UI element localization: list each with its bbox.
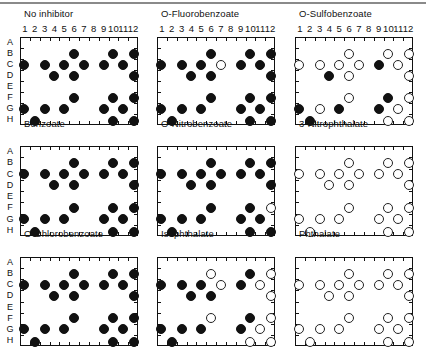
filled-well-icon <box>129 291 139 301</box>
axis-tick <box>403 146 404 150</box>
axis-tick <box>295 191 299 192</box>
filled-well-icon <box>108 49 118 59</box>
filled-well-icon <box>49 71 59 81</box>
axis-tick <box>20 70 24 71</box>
filled-well-icon <box>266 71 276 81</box>
filled-well-icon <box>40 324 50 334</box>
axis-tick <box>187 257 188 261</box>
axis-tick <box>295 268 299 269</box>
axis-tick <box>344 342 345 346</box>
filled-well-icon <box>245 158 255 168</box>
column-label: 12 <box>128 23 139 34</box>
filled-well-icon <box>236 280 246 290</box>
filled-well-icon <box>186 180 196 190</box>
open-well-icon <box>315 169 325 179</box>
open-well-icon <box>383 227 393 237</box>
axis-tick <box>40 342 41 346</box>
open-well-icon <box>315 324 325 334</box>
axis-tick <box>295 157 299 158</box>
axis-tick <box>134 114 138 115</box>
column-label: 11 <box>255 23 265 34</box>
row-label: A <box>7 37 13 47</box>
filled-well-icon <box>40 169 50 179</box>
axis-tick <box>216 232 217 236</box>
filled-well-icon <box>99 324 109 334</box>
axis-tick <box>374 121 375 125</box>
axis-tick <box>89 257 90 261</box>
row-label: D <box>7 70 14 80</box>
filled-well-icon <box>19 104 29 114</box>
column-label: 8 <box>228 23 233 34</box>
axis-tick <box>236 121 237 125</box>
filled-well-icon <box>79 169 89 179</box>
open-well-icon <box>315 60 325 70</box>
axis-tick <box>305 37 306 41</box>
open-well-icon <box>305 337 315 347</box>
axis-tick <box>409 169 413 170</box>
axis-tick <box>226 232 227 236</box>
axis-tick <box>20 335 24 336</box>
column-label: 8 <box>366 23 371 34</box>
axis-tick <box>216 257 217 261</box>
axis-tick <box>167 37 168 41</box>
axis-tick <box>89 342 90 346</box>
axis-tick <box>59 37 60 41</box>
filled-well-icon <box>196 324 206 334</box>
filled-well-icon <box>196 214 206 224</box>
open-well-icon <box>344 158 354 168</box>
row-label: H <box>7 335 14 345</box>
axis-tick <box>206 257 207 261</box>
open-well-icon <box>245 337 255 347</box>
axis-tick <box>236 257 237 261</box>
column-label: 4 <box>52 23 57 34</box>
filled-well-icon <box>206 180 216 190</box>
column-label: 9 <box>238 23 243 34</box>
row-label: G <box>6 324 13 334</box>
axis-tick <box>409 279 413 280</box>
filled-well-icon <box>118 104 128 114</box>
column-label: 3 <box>317 23 322 34</box>
axis-tick <box>216 37 217 41</box>
column-label: 11 <box>393 23 403 34</box>
axis-tick <box>187 342 188 346</box>
axis-tick <box>255 146 256 150</box>
axis-tick <box>167 146 168 150</box>
axis-tick <box>99 342 100 346</box>
axis-tick <box>20 81 24 82</box>
open-well-icon <box>354 280 364 290</box>
filled-well-icon <box>40 214 50 224</box>
column-label: 7 <box>81 23 86 34</box>
axis-tick <box>50 342 51 346</box>
filled-well-icon <box>206 158 216 168</box>
row-label: B <box>7 157 13 167</box>
column-label: 6 <box>208 23 213 34</box>
row-label: C <box>7 59 14 69</box>
axis-tick <box>295 114 299 115</box>
filled-well-icon <box>167 337 177 347</box>
axis-tick <box>409 59 413 60</box>
axis-tick <box>134 335 138 336</box>
axis-tick <box>374 146 375 150</box>
axis-tick <box>246 257 247 261</box>
axis-tick <box>409 103 413 104</box>
axis-tick <box>271 103 275 104</box>
filled-well-icon <box>186 71 196 81</box>
filled-well-icon <box>266 93 276 103</box>
open-well-icon <box>383 337 393 347</box>
panel-title: O-Chlorobenzoate <box>24 228 103 239</box>
axis-tick <box>374 342 375 346</box>
axis-tick <box>69 257 70 261</box>
axis-tick <box>315 146 316 150</box>
filled-well-icon <box>177 324 187 334</box>
axis-tick <box>344 146 345 150</box>
axis-tick <box>50 146 51 150</box>
filled-well-icon <box>236 324 246 334</box>
filled-well-icon <box>108 227 118 237</box>
filled-well-icon <box>19 324 29 334</box>
filled-well-icon <box>383 93 393 103</box>
filled-well-icon <box>266 116 276 126</box>
panel-title: O-Fluorobenzoate <box>161 8 239 19</box>
filled-well-icon <box>59 280 69 290</box>
column-label: 12 <box>265 23 276 34</box>
axis-tick <box>128 37 129 41</box>
